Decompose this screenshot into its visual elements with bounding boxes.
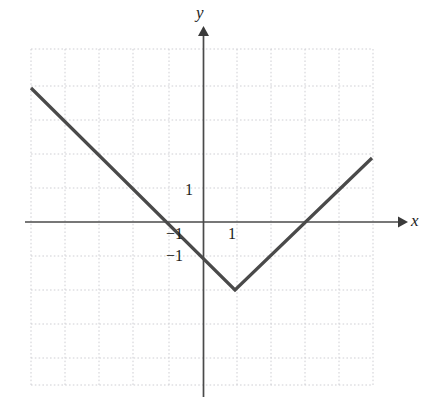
x-axis [25,217,408,228]
y-axis [198,26,209,397]
coordinate-plane [0,0,433,408]
tick-label-y-positive-one: 1 [185,182,193,198]
tick-label-y-negative-one: −1 [166,248,183,264]
graph-figure: y x 1 −1 1 −1 [0,0,433,408]
y-axis-label: y [196,4,204,21]
grid-lines [31,49,373,385]
tick-label-x-positive-one: 1 [228,226,236,242]
tick-label-x-negative-one: −1 [166,226,183,242]
x-axis-label: x [411,212,419,229]
function-curve [31,88,372,290]
